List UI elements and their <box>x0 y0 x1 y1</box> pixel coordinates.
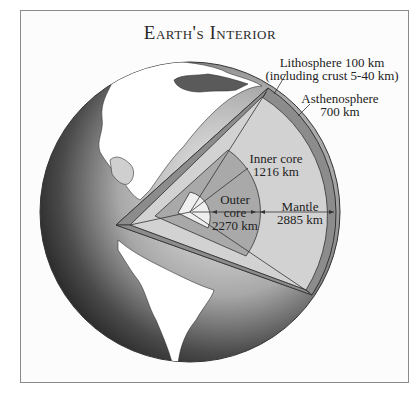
inner-core-label: Inner core 1216 km <box>246 152 306 178</box>
lithosphere-label: Lithosphere 100 km (including crust 5-40… <box>262 56 402 82</box>
mantle-label: Mantle 2885 km <box>270 200 330 226</box>
asthenosphere-label: Asthenosphere 700 km <box>300 92 380 118</box>
outer-core-label: Outer core 2270 km <box>210 193 260 232</box>
